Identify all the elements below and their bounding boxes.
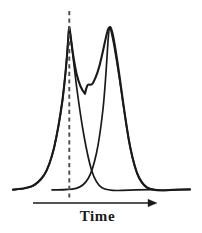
time-axis-arrowhead (148, 199, 157, 206)
component-peak-1-curve (13, 27, 152, 190)
chromatogram-figure: Time (0, 0, 202, 233)
peak-plot-svg (0, 0, 202, 233)
x-axis-label: Time (0, 207, 195, 225)
summed-envelope-curve (13, 27, 190, 190)
